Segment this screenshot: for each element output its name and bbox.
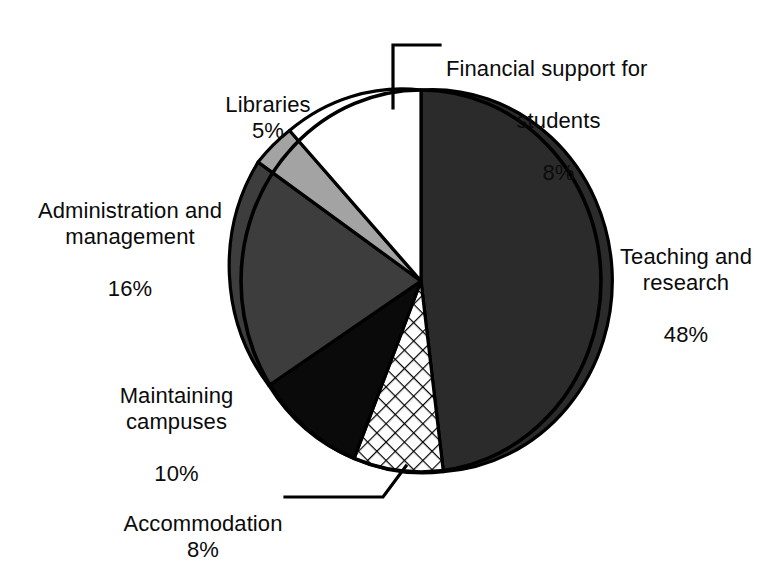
label-financial-support-percent: 8%: [446, 160, 671, 186]
label-accommodation-line1: Accommodation: [123, 511, 282, 536]
label-libraries: Libraries 5%: [188, 66, 348, 170]
label-financial-support-for-students: Financial support for students 8%: [446, 30, 746, 212]
label-administration-line1: Administration and: [38, 198, 222, 223]
label-maintaining-percent: 10%: [84, 461, 269, 487]
label-administration-percent: 16%: [14, 276, 246, 302]
label-teaching-line2: research: [610, 270, 762, 296]
label-teaching-line1: Teaching and: [620, 244, 752, 269]
label-administration-and-management: Administration and management 16%: [14, 172, 246, 328]
label-libraries-line1: Libraries: [225, 92, 310, 117]
label-maintaining-line2: campuses: [84, 409, 269, 435]
label-financial-support-line2: students: [446, 108, 671, 134]
label-financial-support-line1: Financial support for: [446, 56, 647, 81]
label-maintaining-line1: Maintaining: [120, 383, 234, 408]
label-libraries-percent: 5%: [188, 118, 348, 144]
label-accommodation-percent: 8%: [122, 537, 284, 561]
label-teaching-and-research: Teaching and research 48%: [610, 218, 762, 374]
label-teaching-percent: 48%: [610, 322, 762, 348]
label-administration-line2: management: [14, 224, 246, 250]
label-accommodation: Accommodation 8%: [122, 485, 284, 561]
